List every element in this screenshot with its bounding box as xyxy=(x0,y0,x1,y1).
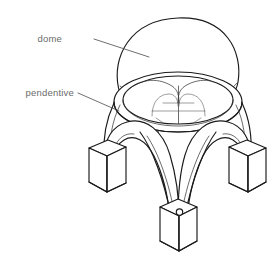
pier-right xyxy=(229,140,266,192)
pier-left xyxy=(89,140,126,192)
pier-front xyxy=(160,199,197,251)
pendentive-label: pendentive xyxy=(26,87,74,98)
label-pendentive: pendentive xyxy=(26,87,119,111)
dome-label: dome xyxy=(37,33,62,44)
dome-on-pendentives-drawing: dome pendentive xyxy=(0,0,279,261)
architectural-diagram: dome pendentive xyxy=(0,0,279,261)
pendentive-leader-line xyxy=(78,93,119,111)
